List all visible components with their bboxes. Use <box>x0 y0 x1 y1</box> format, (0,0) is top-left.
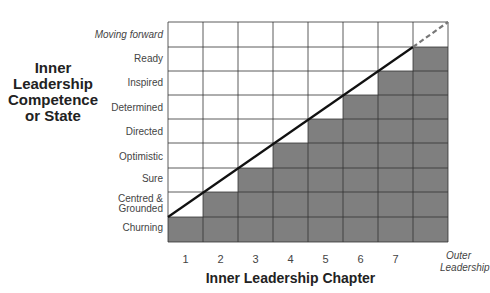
x-tick-7: 7 <box>378 253 413 265</box>
x-tick-2: 2 <box>203 253 238 265</box>
x-axis-title: Inner Leadership Chapter <box>168 270 413 286</box>
x-tick-outer-leadership: Outer Leadership <box>440 250 490 274</box>
x-tick-4: 4 <box>273 253 308 265</box>
progress-diagonal-dashed <box>413 22 448 47</box>
x-tick-1: 1 <box>168 253 203 265</box>
x-outer-line: Leadership <box>440 262 490 274</box>
x-tick-5: 5 <box>308 253 343 265</box>
x-tick-3: 3 <box>238 253 273 265</box>
x-outer-line: Outer <box>440 250 490 262</box>
x-tick-6: 6 <box>343 253 378 265</box>
